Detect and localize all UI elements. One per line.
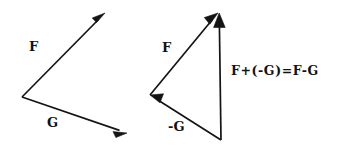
left-vector-g-arrowhead — [113, 132, 127, 138]
right-label-minus-g: -G — [168, 120, 185, 133]
left-label-g: G — [47, 116, 58, 129]
left-vector-f-arrowhead — [92, 13, 105, 22]
right-vector-resultant — [214, 13, 226, 140]
right-vector-minus-g — [150, 94, 221, 140]
right-label-f: F — [162, 41, 171, 54]
left-vector-g-shaft — [22, 97, 120, 130]
right-vector-resultant-shaft — [219, 25, 221, 140]
right-vector-f — [150, 13, 218, 95]
left-diagram-group — [22, 13, 127, 138]
left-label-f: F — [29, 40, 38, 53]
right-label-resultant-equation: F+(-G)=F-G — [231, 65, 319, 78]
right-diagram-group — [150, 13, 225, 140]
vector-subtraction-figure: F G F -G F+(-G)=F-G — [0, 0, 346, 151]
left-vector-f-shaft — [22, 20, 99, 98]
left-vector-g — [22, 97, 127, 138]
right-vector-f-shaft — [150, 20, 212, 95]
left-vector-f — [22, 13, 105, 97]
